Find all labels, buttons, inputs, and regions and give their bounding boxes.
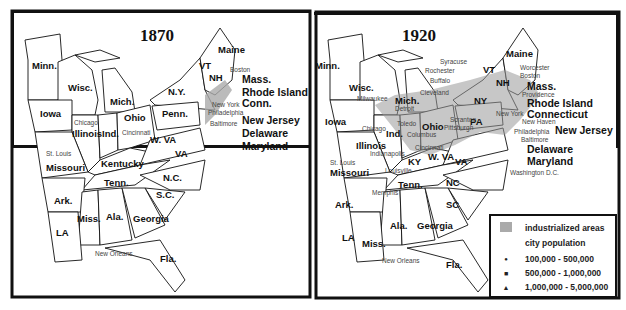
state-label: LA [342,232,355,243]
city-label: Worcester [520,64,550,71]
state-label: VT [199,60,211,71]
state-label: Delaware [242,127,288,139]
state-label: KY [408,156,421,167]
state-label: Kentucky [101,158,144,169]
city-label: Philadelphia [208,109,243,116]
city-label: Pittsburgh [444,124,473,131]
state-label: Ala. [106,211,123,222]
city-label: Cincinnati [415,144,444,151]
city-label: New Haven [522,118,556,125]
state-label: Fla. [160,253,176,264]
state-label: LA [56,227,69,238]
state-label: NH [496,77,510,88]
state-label: Maine [506,48,533,59]
city-label: Cleveland [420,89,449,96]
state-label: W. VA [150,134,176,145]
city-label: New Orleans [95,250,133,257]
state-label: Tenn. [104,177,129,188]
city-label: Memphis [372,189,398,196]
city-label: New Orleans [382,257,420,264]
city-label: Louisville [385,167,412,174]
state-label: New Jersey [555,124,613,136]
state-label: Missouri [46,162,85,173]
city-label: Syracuse [440,58,467,65]
state-label: Conn. [242,97,272,109]
legend-industrialized: industrialized areas [499,222,604,234]
square-icon: ■ [499,270,513,277]
triangle-icon: ▲ [499,284,513,291]
state-label: Iowa [325,116,346,127]
state-label: Ind. [102,128,119,139]
state-label: Miss. [77,213,101,224]
state-label: Minn. [315,60,340,71]
state-label: Ohio [124,112,146,123]
city-label: Boston [230,66,250,73]
city-label: Baltimore [521,136,548,143]
state-label: NC [446,177,460,188]
city-label: Rochester [425,67,455,74]
state-label: VA [175,148,188,159]
state-label: Iowa [40,108,61,119]
state-label: Delaware [527,143,573,155]
state-label: Fla. [446,259,462,270]
city-label: Detroit [395,105,414,112]
state-label: Tenn. [398,179,423,190]
state-label: Maine [218,44,245,55]
state-label: VT [483,64,495,75]
legend-item: ▲ 1,000,000 - 5,000,000 [499,282,608,292]
state-label: Georgia [133,213,169,224]
state-label: Minn. [32,60,57,71]
gray-swatch-icon [500,222,512,232]
state-label: Missouri [330,167,369,178]
city-label: Toledo [397,120,416,127]
state-label: Mass. [242,73,271,85]
legend-city-population: city population [499,238,585,248]
state-label: Illinois [72,128,102,139]
state-label: Ark. [335,199,353,210]
state-label: Ark. [54,195,72,206]
city-label: Cincinnati [122,129,151,136]
city-label: Chicago [74,119,98,126]
state-label: Georgia [417,220,453,231]
city-label: Scranton [450,116,476,123]
state-label: Wisc. [68,82,93,93]
state-label: VA [455,156,468,167]
city-label: Columbus [407,131,436,138]
state-label: Penn. [162,108,188,119]
city-label: New York [496,110,523,117]
state-label: S.C. [156,189,174,200]
map-title-1920: 1920 [402,26,436,46]
state-label: N.Y. [168,86,185,97]
legend-item: ■ 500,000 - 1,000,000 [499,268,601,278]
state-label: Ind. [386,128,403,139]
city-label: Boston [520,72,540,79]
state-label: SC [446,199,459,210]
city-label: Philadelphia [514,128,549,135]
map-title-1870: 1870 [140,26,174,46]
city-label: New York [212,101,239,108]
dot-icon: ● [499,256,513,262]
map-legend: industrialized areas city population ● 1… [489,214,617,298]
state-label: Ala. [390,220,407,231]
legend-item: ● 100,000 - 500,000 [499,254,594,264]
city-label: St. Louis [46,150,71,157]
city-label: Buffalo [430,77,450,84]
state-label: Maryland [242,140,288,152]
state-label: New Jersey [242,114,300,126]
state-label: Miss. [362,238,386,249]
state-label: Wisc. [349,82,374,93]
state-label: W. VA [428,151,454,162]
state-label: NY [474,95,487,106]
city-label: Providence [522,91,555,98]
city-label: Indianapolis [370,150,405,157]
city-label: Baltimore [210,120,237,127]
city-label: Chicago [362,125,386,132]
state-label: N.C. [163,172,182,183]
state-label: Mich. [110,96,134,107]
state-label: NH [209,72,223,83]
city-label: Washington D.C. [510,169,559,176]
state-label: Maryland [527,155,573,167]
city-label: Milwaukee [357,95,388,102]
city-label: St. Louis [330,159,355,166]
